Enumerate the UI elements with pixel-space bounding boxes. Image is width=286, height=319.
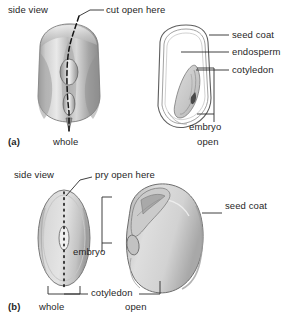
panel-a-cotyledon-label: cotyledon xyxy=(232,65,274,76)
panel-b-embryo-label: embryo xyxy=(73,247,105,258)
panel-a-side-view-label: side view xyxy=(8,5,48,16)
panel-b-seed-coat-label: seed coat xyxy=(225,201,269,212)
panel-b-marker: (b) xyxy=(8,302,20,313)
bean-open-drawing xyxy=(126,184,203,293)
panel-b-pry-open-here-label: pry open here xyxy=(95,170,155,181)
bracket-cotyledon-whole-b xyxy=(48,286,80,294)
panel-b-caption-whole: whole xyxy=(39,302,64,313)
panel-b-cotyledon-label: cotyledon xyxy=(91,288,133,299)
panel-b-side-view-label: side view xyxy=(14,170,54,181)
bracket-embryo-b xyxy=(102,197,112,243)
panel-a-seed-coat-label: seed coat xyxy=(232,30,274,41)
leader-cut-open-here xyxy=(79,10,104,16)
panel-a-caption-whole: whole xyxy=(53,137,78,148)
panel-b-caption-open: open xyxy=(125,302,147,313)
panel-a-cut-open-here-label: cut open here xyxy=(106,5,165,16)
panel-a-endosperm-label: endosperm xyxy=(232,47,280,58)
panel-a-embryo-label: embryo xyxy=(189,122,221,133)
corn-kernel-open-drawing xyxy=(158,25,211,128)
panel-a-marker: (a) xyxy=(8,137,20,148)
panel-a-caption-open: open xyxy=(197,137,219,148)
seed-structure-figure: side view cut open here seed coat endosp… xyxy=(0,0,286,319)
